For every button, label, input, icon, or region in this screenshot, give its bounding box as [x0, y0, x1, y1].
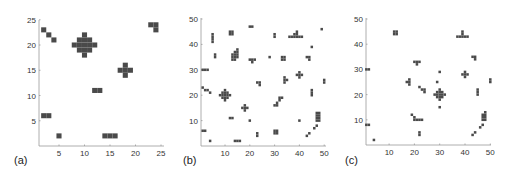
grid-cell: [436, 91, 439, 94]
x-tick-label: 20: [410, 148, 419, 157]
grid-cell: [209, 140, 211, 143]
grid-cell: [51, 37, 56, 42]
grid-cell: [92, 88, 97, 93]
grid-cell: [276, 104, 278, 107]
grid-cell: [438, 91, 441, 94]
grid-cell: [283, 81, 285, 84]
grid-cell: [421, 119, 424, 122]
grid-cell: [438, 71, 441, 74]
y-tick-label: 15: [27, 66, 36, 75]
x-tick-label: 25: [157, 149, 166, 158]
grid-cell: [276, 129, 278, 132]
grid-cell: [296, 74, 298, 77]
grid-cell: [206, 69, 208, 72]
grid-cell: [368, 124, 371, 127]
grid-cell: [221, 91, 223, 94]
grid-cell: [278, 96, 280, 99]
grid-cell: [204, 89, 206, 92]
grid-cell: [311, 94, 313, 97]
grid-cell: [276, 132, 278, 135]
grid-cell: [241, 107, 243, 110]
grid-cell: [484, 116, 487, 119]
grid-cell: [408, 81, 411, 84]
grid-cell: [461, 35, 464, 38]
grid-cell: [464, 35, 467, 38]
panel-a-chart: 510152025510152025(a): [14, 16, 166, 166]
grid-cell: [201, 129, 203, 132]
grid-cell: [365, 124, 368, 127]
grid-cell: [249, 25, 251, 28]
grid-cell: [229, 33, 231, 36]
y-tick-label: 40: [354, 40, 363, 49]
grid-cell: [201, 86, 203, 89]
grid-cell: [206, 89, 208, 92]
grid-cell: [273, 33, 275, 36]
grid-cell: [214, 53, 216, 56]
grid-cell: [102, 133, 107, 138]
occupied-cells: [365, 30, 492, 141]
grid-cell: [306, 135, 308, 138]
grid-cell: [484, 111, 487, 114]
y-tick-label: 50: [189, 15, 198, 24]
grid-cell: [234, 53, 236, 56]
grid-cell: [87, 48, 92, 53]
grid-cell: [436, 93, 439, 96]
grid-cell: [423, 91, 426, 94]
grid-cell: [308, 56, 310, 59]
grid-cell: [313, 127, 315, 130]
grid-cell: [296, 30, 298, 33]
grid-cell: [421, 88, 424, 91]
grid-cell: [481, 124, 484, 127]
grid-cell: [416, 61, 419, 64]
grid-cell: [236, 48, 238, 51]
grid-cell: [481, 114, 484, 117]
grid-cell: [293, 33, 295, 36]
grid-cell: [308, 58, 310, 61]
grid-cell: [204, 69, 206, 72]
grid-cell: [318, 119, 320, 122]
grid-cell: [123, 73, 128, 78]
grid-cell: [301, 36, 303, 39]
grid-cell: [82, 42, 87, 47]
y-tick-label: 30: [189, 66, 198, 75]
grid-cell: [464, 73, 467, 76]
grid-cell: [249, 119, 251, 122]
grid-cell: [231, 117, 233, 120]
grid-cell: [373, 139, 376, 142]
grid-cell: [423, 88, 426, 91]
grid-cell: [484, 114, 487, 117]
grid-cell: [481, 119, 484, 122]
axes: 10203040501020304050: [354, 15, 495, 157]
grid-cell: [418, 131, 421, 134]
grid-cell: [476, 91, 479, 94]
grid-cell: [461, 73, 464, 76]
grid-cell: [41, 27, 46, 32]
grid-cell: [234, 140, 236, 143]
grid-cell: [481, 116, 484, 119]
y-tick-label: 5: [32, 117, 37, 126]
grid-cell: [476, 88, 479, 91]
grid-cell: [211, 41, 213, 44]
occupied-cells: [201, 25, 325, 142]
grid-cell: [273, 129, 275, 132]
grid-cell: [466, 73, 469, 76]
grid-cell: [311, 91, 313, 94]
grid-cell: [433, 93, 436, 96]
grid-cell: [308, 132, 310, 135]
grid-cell: [148, 22, 153, 27]
x-tick-label: 50: [486, 148, 495, 157]
grid-cell: [306, 56, 308, 59]
grid-cell: [244, 109, 246, 112]
grid-cell: [224, 94, 226, 97]
x-tick-label: 10: [80, 149, 89, 158]
grid-cell: [489, 78, 492, 81]
grid-cell: [479, 126, 482, 129]
grid-cell: [413, 61, 416, 64]
grid-cell: [41, 113, 46, 118]
grid-cell: [395, 30, 398, 33]
y-tick-label: 20: [189, 91, 198, 100]
grid-cell: [393, 30, 396, 33]
figure-canvas: 510152025510152025(a) 102030405010203040…: [0, 0, 514, 177]
panel-label: (c): [345, 154, 358, 166]
grid-cell: [256, 81, 258, 84]
